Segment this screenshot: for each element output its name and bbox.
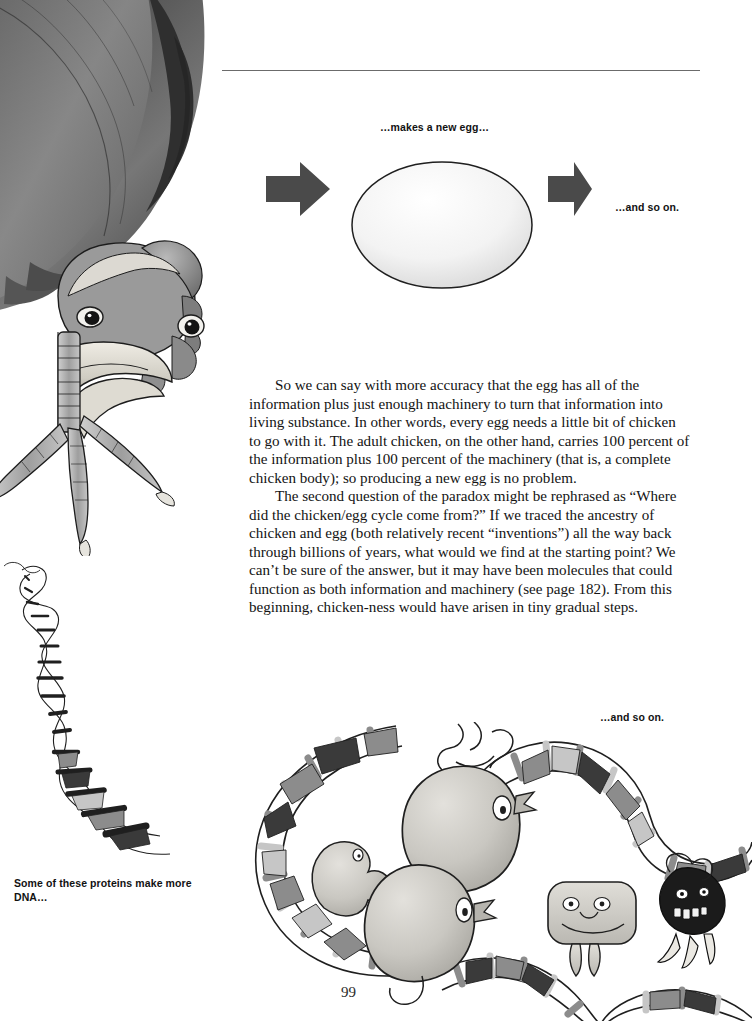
dna-loop-with-proteins-illustration (246, 722, 752, 1021)
caption-and-so-on-top: …and so on. (615, 201, 679, 213)
arrow-left-shape (266, 162, 330, 216)
chicken-head-illustration (0, 0, 228, 560)
protein-rounded-square-shape (548, 882, 636, 976)
page-number: 99 (341, 984, 356, 1001)
book-page: …makes a new egg… …and so on. So we can … (0, 0, 752, 1021)
body-text-column: So we can say with more accuracy that th… (249, 376, 690, 617)
caption-proteins-make-more-dna: Some of these proteins make more DNA… (14, 876, 194, 904)
protein-dark-monster-shape (658, 853, 725, 968)
protein-blob-small-left-shape (312, 842, 390, 916)
caption-makes-a-new-egg: …makes a new egg… (380, 121, 489, 133)
arrow-right-shape (548, 162, 592, 216)
caption-and-so-on-bottom: …and so on. (600, 711, 664, 723)
paragraph-2: The second question of the paradox might… (249, 487, 690, 617)
egg-and-arrows-figure (262, 150, 592, 314)
paragraph-1: So we can say with more accuracy that th… (249, 376, 690, 487)
protein-blob-large-upper-shape (402, 766, 536, 892)
header-rule (222, 70, 700, 71)
protein-blob-large-lower-shape (365, 865, 496, 1004)
